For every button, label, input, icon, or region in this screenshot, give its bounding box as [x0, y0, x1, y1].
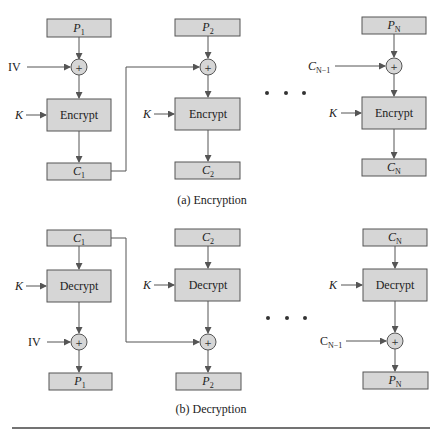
dec-column-n: CN Decrypt K + CN−1 PN: [320, 229, 428, 389]
dec-column-1: C1 Decrypt K + IV P1: [14, 230, 199, 390]
decryption-caption: (b) Decryption: [176, 402, 247, 416]
svg-text:+: +: [390, 62, 398, 72]
enc-key-label-2: K: [142, 107, 152, 121]
dec-prev-cipher-label: CN−1: [320, 334, 342, 350]
svg-text:+: +: [391, 337, 399, 347]
enc-column-n: PN + CN−1 Encrypt K CN: [308, 17, 426, 176]
enc-column-2: P2 + Encrypt K C2: [142, 19, 240, 179]
dec-key-label-1: K: [14, 279, 24, 293]
svg-text:+: +: [75, 63, 83, 73]
decryption-section: C1 Decrypt K + IV P1 C2 Decrypt K: [14, 229, 428, 416]
svg-text:+: +: [204, 63, 212, 73]
dec-iv-label: IV: [28, 335, 41, 349]
svg-text:+: +: [204, 338, 212, 348]
decrypt-label-1: Decrypt: [60, 279, 99, 293]
enc-key-label-n: K: [328, 106, 338, 120]
encrypt-label-n: Encrypt: [375, 106, 414, 120]
encrypt-label-1: Encrypt: [60, 108, 99, 122]
decrypt-label-n: Decrypt: [376, 278, 415, 292]
encryption-caption: (a) Encryption: [177, 193, 247, 207]
dec-key-label-n: K: [328, 278, 338, 292]
svg-text:+: +: [75, 338, 83, 348]
encrypt-label-2: Encrypt: [189, 107, 228, 121]
enc-column-1: P1 + IV Encrypt K C1: [8, 19, 199, 180]
enc-key-label-1: K: [14, 108, 24, 122]
encryption-section: P1 + IV Encrypt K C1 P2 + Encry: [8, 17, 426, 207]
dec-key-label-2: K: [142, 278, 152, 292]
enc-prev-cipher-label: CN−1: [308, 59, 330, 75]
dec-column-2: C2 Decrypt K + P2: [142, 229, 241, 390]
enc-iv-label: IV: [8, 60, 21, 74]
decrypt-label-2: Decrypt: [189, 278, 228, 292]
enc-ellipsis: [265, 91, 306, 95]
dec-ellipsis: [266, 316, 307, 320]
cbc-diagram: P1 + IV Encrypt K C1 P2 + Encry: [0, 0, 441, 435]
